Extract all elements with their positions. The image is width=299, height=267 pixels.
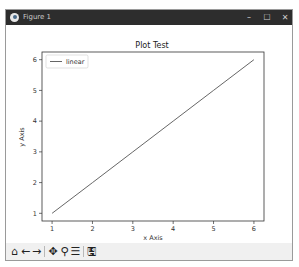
magnifier-icon[interactable]: ⚲ bbox=[59, 244, 70, 259]
y-axis-label: y Axis bbox=[18, 127, 26, 147]
toolbar-separator bbox=[83, 246, 84, 257]
y-tick-label: 2 bbox=[33, 179, 37, 187]
window-title: Figure 1 bbox=[23, 12, 51, 23]
floppy-disk-icon[interactable]: 🖫 bbox=[86, 244, 97, 259]
x-tick-label: 3 bbox=[131, 225, 135, 233]
y-tick-label: 6 bbox=[33, 56, 37, 64]
home-icon[interactable]: ⌂ bbox=[9, 244, 20, 259]
legend-label: linear bbox=[66, 58, 85, 66]
y-tick-label: 1 bbox=[33, 210, 37, 218]
arrow-right-icon[interactable]: → bbox=[31, 244, 42, 259]
y-tick-label: 4 bbox=[33, 117, 37, 125]
chart-title: Plot Test bbox=[135, 41, 168, 50]
app-icon bbox=[10, 13, 19, 22]
x-axis-label: x Axis bbox=[143, 234, 163, 242]
legend: linear bbox=[46, 55, 88, 68]
maximize-button[interactable]: ☐ bbox=[258, 10, 276, 25]
close-button[interactable]: ✕ bbox=[276, 10, 294, 25]
x-tick-label: 5 bbox=[211, 225, 215, 233]
arrow-left-icon[interactable]: ← bbox=[20, 244, 31, 259]
sliders-icon[interactable]: ☰ bbox=[70, 244, 81, 259]
navigation-toolbar: ⌂ ← → ✥ ⚲ ☰ 🖫 bbox=[6, 243, 292, 260]
y-tick-label: 5 bbox=[33, 87, 37, 95]
x-tick-label: 2 bbox=[90, 225, 94, 233]
figure-window: Figure 1 – ☐ ✕ Plot Test 123456 123456 l… bbox=[5, 9, 293, 261]
y-tick-label: 3 bbox=[33, 148, 37, 156]
series-line-linear bbox=[52, 60, 254, 214]
figure-canvas[interactable]: Plot Test 123456 123456 linear x Axis y … bbox=[6, 25, 292, 243]
x-tick-label: 1 bbox=[50, 225, 54, 233]
x-axis-ticks: 123456 bbox=[50, 221, 256, 233]
minimize-button[interactable]: – bbox=[240, 10, 258, 25]
y-axis-ticks: 123456 bbox=[33, 56, 42, 218]
x-tick-label: 6 bbox=[252, 225, 256, 233]
move-icon[interactable]: ✥ bbox=[47, 244, 59, 259]
toolbar-separator bbox=[44, 246, 45, 257]
title-bar[interactable]: Figure 1 – ☐ ✕ bbox=[6, 10, 292, 25]
x-tick-label: 4 bbox=[171, 225, 175, 233]
